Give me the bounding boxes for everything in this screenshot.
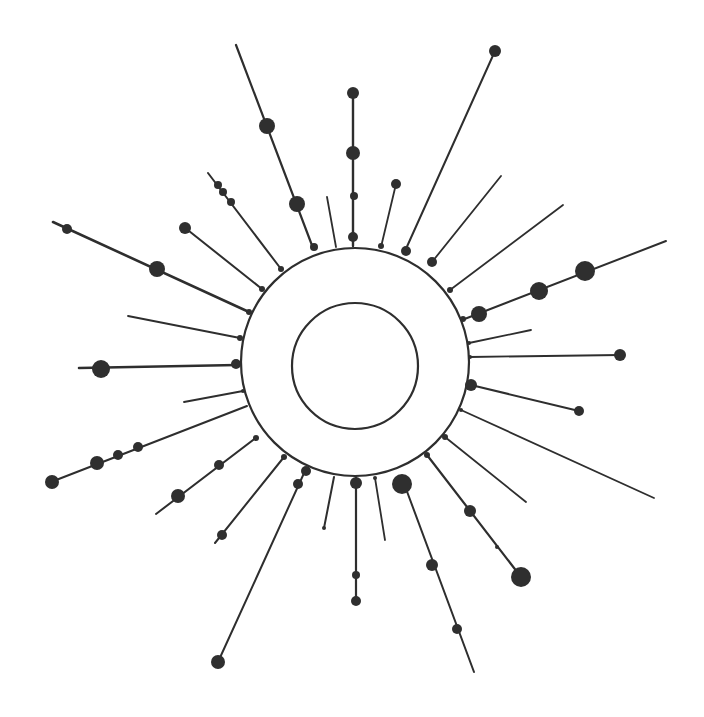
ray-node-dot: [179, 222, 191, 234]
ray-node-dot: [427, 257, 437, 267]
ray-line: [432, 176, 501, 262]
ray-node-dot: [347, 87, 359, 99]
ray-line: [324, 477, 334, 528]
ray-line: [218, 471, 305, 662]
ray-node-dot: [214, 460, 224, 470]
ray-node-dot: [253, 435, 259, 441]
ray-node-dot: [322, 526, 326, 530]
ray-node-dot: [219, 188, 227, 196]
ray-node-dot: [348, 232, 358, 242]
ray-line: [470, 355, 620, 357]
ray-node-dot: [171, 489, 185, 503]
ray-line: [51, 406, 247, 482]
ray-node-dot: [113, 450, 123, 460]
ray-node-dot: [281, 454, 287, 460]
ray-node-dot: [45, 475, 59, 489]
ray-node-dot: [350, 192, 358, 200]
ray-node-dot: [424, 452, 430, 458]
ray-line: [445, 437, 526, 502]
ray-line: [471, 385, 579, 411]
ray-node-dot: [346, 146, 360, 160]
ray-line: [236, 45, 313, 248]
ray-node-dot: [465, 379, 477, 391]
ray-node-dot: [149, 261, 165, 277]
ray-line: [469, 330, 531, 343]
ray-node-dot: [227, 198, 235, 206]
ray-line: [461, 410, 654, 498]
ray-node-dot: [452, 624, 462, 634]
ray-line: [215, 457, 284, 543]
ray-node-dot: [373, 476, 377, 480]
ray-line: [184, 227, 262, 289]
ray-node-dot: [401, 246, 411, 256]
ray-node-dot: [495, 545, 499, 549]
ray-line: [381, 184, 396, 247]
ray-node-dot: [278, 266, 284, 272]
inner-ring: [292, 303, 418, 429]
ray-node-dot: [259, 286, 265, 292]
ray-node-dot: [378, 243, 384, 249]
ray-node-dot: [530, 282, 548, 300]
ray-node-dot: [231, 359, 241, 369]
ray-node-dot: [352, 571, 360, 579]
ray-node-dot: [211, 655, 225, 669]
ray-node-dot: [460, 316, 466, 322]
ray-node-dot: [293, 479, 303, 489]
ray-node-dot: [459, 408, 463, 412]
ray-line: [128, 316, 240, 338]
ray-node-dot: [310, 243, 318, 251]
ray-node-dot: [62, 224, 72, 234]
ray-node-dot: [237, 335, 243, 341]
ray-node-dot: [289, 196, 305, 212]
ray-line: [327, 197, 336, 247]
ray-node-dot: [575, 261, 595, 281]
ray-line: [375, 478, 385, 540]
ray-node-dot: [442, 434, 448, 440]
ray-node-dot: [392, 474, 412, 494]
ray-line: [462, 241, 666, 320]
ray-node-dot: [391, 179, 401, 189]
ray-line: [427, 455, 521, 577]
ray-node-dot: [350, 477, 362, 489]
ray-node-dot: [468, 355, 472, 359]
ray-node-dot: [246, 309, 252, 315]
ray-node-dot: [133, 442, 143, 452]
ray-node-dot: [92, 360, 110, 378]
ray-node-dot: [447, 287, 453, 293]
ray-line: [184, 391, 243, 402]
ray-node-dot: [426, 559, 438, 571]
ray-node-dot: [614, 349, 626, 361]
ray-node-dot: [471, 306, 487, 322]
ray-node-dot: [464, 505, 476, 517]
ray-node-dot: [214, 181, 222, 189]
ray-line: [402, 478, 474, 672]
ray-node-dot: [489, 45, 501, 57]
ray-node-dot: [351, 596, 361, 606]
ray-node-dot: [574, 406, 584, 416]
ray-line: [405, 51, 495, 251]
radial-burst-diagram: [0, 0, 704, 717]
ray-node-dot: [467, 341, 471, 345]
ray-line: [156, 437, 257, 514]
ray-node-dot: [259, 118, 275, 134]
ray-node-dot: [90, 456, 104, 470]
ray-node-dot: [241, 389, 245, 393]
ray-node-dot: [301, 466, 311, 476]
ray-node-dot: [217, 530, 227, 540]
ray-node-dot: [511, 567, 531, 587]
